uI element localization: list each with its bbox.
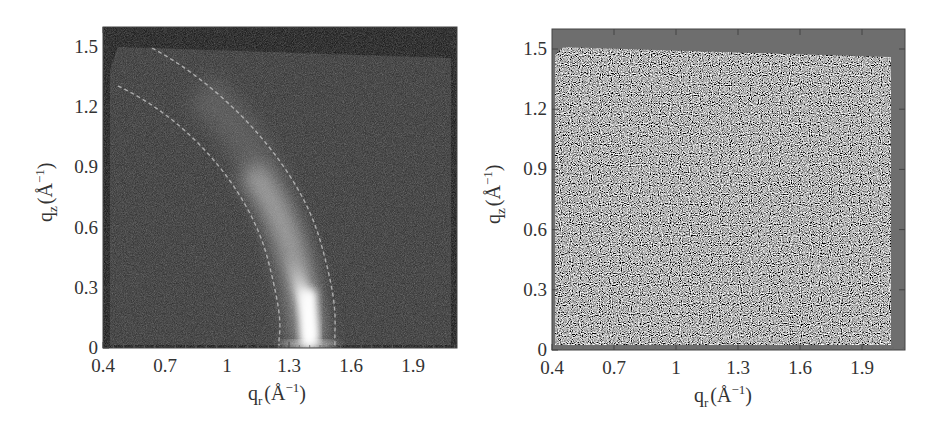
left-heatmap-chart: 0.4 0.7 1 1.3 1.6 1.9 0 0.3 0.6 0.9 1.2 …: [0, 0, 466, 430]
right-x-tick-label: 1.9: [850, 357, 874, 378]
left-x-axis-label: qr(Å−1): [248, 380, 306, 408]
left-x-tick-label: 1: [222, 355, 232, 376]
left-x-tick-label: 1.3: [277, 355, 301, 376]
left-y-axis-label: qz(Å−1): [32, 163, 60, 222]
left-y-tick-label: 0: [89, 337, 99, 358]
right-y-tick-label: 0: [538, 339, 548, 360]
right-x-tick-label: 0.7: [602, 357, 626, 378]
left-plot-area: [103, 27, 457, 348]
right-y-tick-label: 0.9: [523, 158, 547, 179]
right-x-tick-label: 0.4: [540, 357, 564, 378]
left-y-tick-label: 1.5: [74, 36, 98, 57]
left-x-tick-label: 1.9: [401, 355, 425, 376]
left-y-tick-label: 0.3: [74, 277, 98, 298]
left-x-tick-label: 0.4: [91, 355, 115, 376]
left-x-tick-label: 1.6: [339, 355, 363, 376]
right-x-tick-label: 1.3: [726, 357, 750, 378]
right-x-tick-label: 1.6: [788, 357, 812, 378]
right-panel: 0.4 0.7 1 1.3 1.6 1.9 0 0.3 0.6 0.9 1.2 …: [466, 0, 933, 430]
right-y-axis-label: qz(Å−1): [480, 165, 508, 224]
right-y-tick-label: 0.3: [523, 279, 547, 300]
right-y-tick-label: 1.2: [523, 98, 547, 119]
left-panel: 0.4 0.7 1 1.3 1.6 1.9 0 0.3 0.6 0.9 1.2 …: [0, 0, 466, 430]
right-y-tick-label: 1.5: [523, 38, 547, 59]
right-y-tick-label: 0.6: [523, 219, 547, 240]
right-plot-area: [552, 29, 905, 350]
right-x-axis-label: qr(Å−1): [694, 382, 752, 410]
left-y-tick-label: 1.2: [74, 96, 98, 117]
left-y-tick-label: 0.6: [74, 217, 98, 238]
left-x-tick-label: 0.7: [153, 355, 177, 376]
right-heatmap-chart: 0.4 0.7 1 1.3 1.6 1.9 0 0.3 0.6 0.9 1.2 …: [466, 0, 933, 430]
left-y-tick-label: 0.9: [74, 156, 98, 177]
right-x-tick-label: 1: [671, 357, 681, 378]
